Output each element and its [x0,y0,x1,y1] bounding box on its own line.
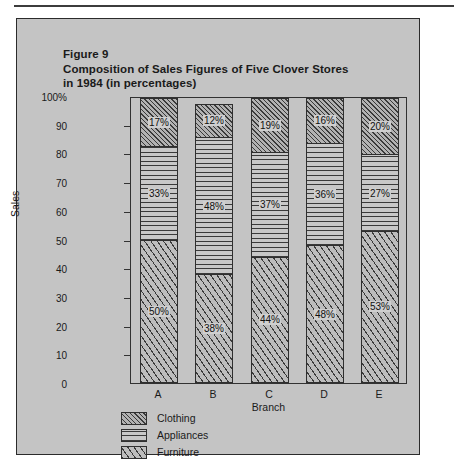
x-tick-label-b: B [194,388,232,400]
legend-item-furniture[interactable]: Furniture [121,444,208,460]
segment-value-label: 37% [259,199,281,210]
segment-value-label: 44% [259,314,281,325]
segment-value-label: 19% [259,120,281,131]
legend-label: Appliances [157,429,208,441]
bar-segment-clothing[interactable]: 16% [306,98,344,144]
bar-group-c[interactable]: 19%37%44% [251,98,289,383]
segment-value-label: 27% [369,188,391,199]
legend-label: Furniture [157,446,199,458]
figure-title-block: Figure 9 Composition of Sales Figures of… [63,47,403,91]
segment-value-label: 53% [369,301,391,312]
segment-value-label: 50% [148,306,170,317]
bar-segment-furniture[interactable]: 50% [140,240,178,384]
top-horizontal-rule [14,5,454,7]
y-tick-label: 0 [7,379,67,390]
y-tick-label: 90 [7,120,67,131]
x-tick-label-a: A [139,388,177,400]
bar-segment-furniture[interactable]: 38% [195,274,233,383]
bar-segment-appliances[interactable]: 33% [140,146,178,241]
x-tick-label-e: E [360,388,398,400]
x-tick-label-c: C [250,388,288,400]
bar-segment-appliances[interactable]: 48% [195,137,233,275]
y-tick-label: 100% [7,92,67,103]
segment-value-label: 12% [203,115,225,126]
segment-value-label: 16% [314,115,336,126]
y-tick-label: 80 [7,149,67,160]
bar-segment-furniture[interactable]: 44% [251,257,289,383]
legend-swatch-appliances [121,429,147,442]
bar-segment-clothing[interactable]: 20% [361,98,399,155]
segment-value-label: 17% [148,117,170,128]
legend-item-appliances[interactable]: Appliances [121,427,208,443]
bar-segment-appliances[interactable]: 27% [361,154,399,231]
y-tick-label: 20 [7,321,67,332]
segment-value-label: 33% [148,188,170,199]
bar-segment-appliances[interactable]: 37% [251,152,289,258]
segment-value-label: 48% [314,309,336,320]
bar-segment-furniture[interactable]: 48% [306,245,344,383]
segment-value-label: 38% [203,323,225,334]
legend-item-clothing[interactable]: Clothing [121,410,208,426]
bar-group-e[interactable]: 20%27%53% [361,98,399,383]
segment-value-label: 36% [314,189,336,200]
bar-group-d[interactable]: 16%36%48% [306,98,344,383]
y-tick-label: 50 [7,235,67,246]
bar-segment-appliances[interactable]: 36% [306,143,344,246]
figure-title-line-2: in 1984 (in percentages) [63,76,403,91]
segment-value-label: 20% [369,121,391,132]
bar-segment-clothing[interactable]: 17% [140,98,178,147]
bar-segment-furniture[interactable]: 53% [361,231,399,383]
legend-swatch-furniture [121,446,147,459]
y-tick-label: 40 [7,264,67,275]
bar-segment-clothing[interactable]: 12% [195,104,233,138]
bar-segment-clothing[interactable]: 19% [251,98,289,153]
chart-legend: ClothingAppliancesFurniture [121,410,208,461]
bar-group-a[interactable]: 17%33%50% [140,98,178,383]
segment-value-label: 48% [203,201,225,212]
figure-panel: Figure 9 Composition of Sales Figures of… [16,18,420,455]
figure-title-line-1: Composition of Sales Figures of Five Clo… [63,62,403,77]
plot-area: 17%33%50%12%48%38%19%37%44%16%36%48%20%2… [130,97,407,384]
figure-label: Figure 9 [63,47,403,62]
y-tick-label: 70 [7,178,67,189]
legend-label: Clothing [157,412,196,424]
y-tick-label: 10 [7,350,67,361]
y-tick-label: 60 [7,206,67,217]
x-tick-label-d: D [305,388,343,400]
bar-group-b[interactable]: 12%48%38% [195,104,233,383]
y-tick-label: 30 [7,292,67,303]
legend-swatch-clothing [121,412,147,425]
